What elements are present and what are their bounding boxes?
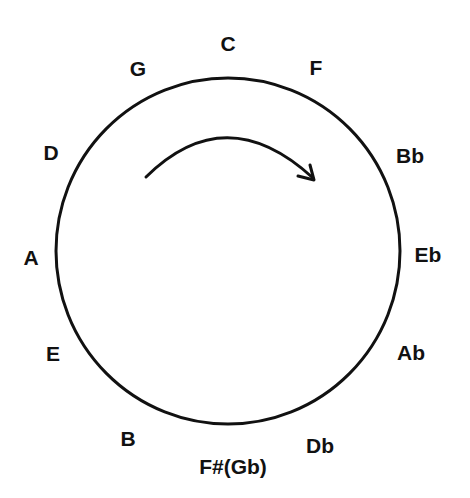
- key-label-c: C: [220, 33, 235, 54]
- key-label-ab: Ab: [397, 342, 425, 363]
- key-label-g: G: [130, 58, 146, 79]
- circle-graphic: [0, 0, 470, 498]
- key-label-eb: Eb: [415, 244, 442, 265]
- key-label-b: B: [120, 428, 135, 449]
- key-label-e: E: [46, 343, 60, 364]
- circle-of-fifths-diagram: C F Bb Eb Ab Db F#(Gb) B E A D G: [0, 0, 470, 498]
- circle-outline: [56, 78, 400, 424]
- key-label-a: A: [23, 247, 38, 268]
- key-label-bb: Bb: [396, 145, 424, 166]
- key-label-f: F: [310, 57, 323, 78]
- key-label-d: D: [43, 142, 58, 163]
- key-label-f-sharp-g-flat: F#(Gb): [199, 456, 267, 477]
- clockwise-arrow-icon: [146, 138, 313, 178]
- key-label-db: Db: [306, 435, 334, 456]
